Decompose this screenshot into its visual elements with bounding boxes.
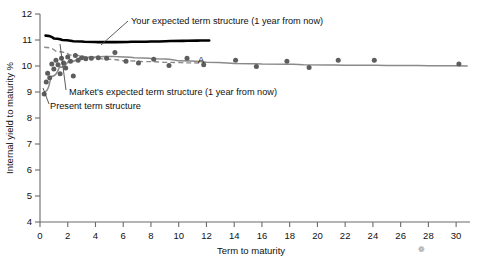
y-tick-label: 8 (27, 112, 32, 123)
x-tick-label: 22 (340, 230, 351, 241)
scatter-point (56, 62, 61, 67)
scatter-point (73, 53, 78, 58)
x-axis-title: Term to maturity (217, 245, 285, 256)
scatter-point (47, 75, 52, 80)
y-axis-ticks: 456789101112 (21, 8, 40, 227)
scatter-point (79, 55, 84, 60)
axes: 456789101112 024681012141618202224262830 (21, 8, 470, 241)
scatter-point (58, 71, 63, 76)
y-tick-label: 12 (21, 8, 32, 19)
x-tick-label: 20 (312, 230, 323, 241)
term-structure-chart: 456789101112 024681012141618202224262830… (0, 0, 483, 267)
scatter-point (233, 58, 238, 63)
y-tick-label: 10 (21, 60, 32, 71)
chart-figure: 456789101112 024681012141618202224262830… (0, 0, 483, 267)
annotation-point-a: A (198, 55, 205, 65)
y-tick-label: 4 (27, 216, 32, 227)
annotation-markets-expected: Market's expected term structure (1 year… (69, 87, 277, 97)
scatter-point (112, 50, 117, 55)
x-tick-label: 2 (65, 230, 70, 241)
x-tick-label: 14 (229, 230, 240, 241)
y-tick-label: 7 (27, 138, 32, 149)
scatter-point (96, 55, 101, 60)
curve-your-expected-term-structure: Your expected term structure (1 year fro… (46, 36, 210, 43)
scatter-point (124, 59, 129, 64)
scatter-point (167, 63, 172, 68)
x-tick-label: 28 (423, 230, 434, 241)
x-tick-label: 30 (451, 230, 462, 241)
scatter-point (51, 67, 56, 72)
y-tick-label: 11 (22, 34, 32, 45)
x-tick-label: 12 (201, 230, 212, 241)
scatter-point (44, 80, 49, 85)
scatter-point (284, 59, 289, 64)
scatter-point (45, 71, 50, 76)
x-tick-label: 18 (284, 230, 295, 241)
x-tick-label: 26 (395, 230, 406, 241)
scatter-point (89, 56, 94, 61)
scatter-point (372, 58, 377, 63)
x-tick-label: 24 (368, 230, 379, 241)
scatter-point (104, 56, 109, 61)
series-curves: Your expected term structure (1 year fro… (44, 36, 467, 92)
y-tick-label: 6 (27, 164, 32, 175)
x-tick-label: 4 (93, 230, 98, 241)
scatter-point (71, 73, 76, 78)
scatter-point (68, 59, 73, 64)
scatter-point (65, 54, 70, 59)
x-tick-label: 8 (148, 230, 153, 241)
x-axis-ticks: 024681012141618202224262830 (37, 222, 461, 241)
x-tick-label: 10 (173, 230, 184, 241)
scatter-point (307, 65, 312, 70)
scatter-point (151, 57, 156, 62)
scatter-point (336, 58, 341, 63)
annotation-your-expected: Your expected term structure (1 year fro… (131, 16, 323, 26)
x-tick-label: 16 (257, 230, 268, 241)
scatter-point (53, 58, 58, 63)
scatter-point (254, 64, 259, 69)
y-tick-label: 5 (27, 190, 32, 201)
y-axis-title: Internal yield to maturity % (4, 61, 15, 173)
scatter-point (456, 61, 461, 66)
x-tick-label: 6 (121, 230, 126, 241)
x-tick-label: 0 (37, 230, 42, 241)
scatter-point (136, 60, 141, 65)
scatter-point (63, 66, 68, 71)
y-tick-label: 9 (27, 86, 32, 97)
scatter-point (185, 56, 190, 61)
scatter-point (83, 56, 88, 61)
annotation-present: Present term structure (50, 101, 141, 111)
scatter-point (49, 61, 54, 66)
stray-mark-glyph: ❁ (418, 245, 425, 254)
